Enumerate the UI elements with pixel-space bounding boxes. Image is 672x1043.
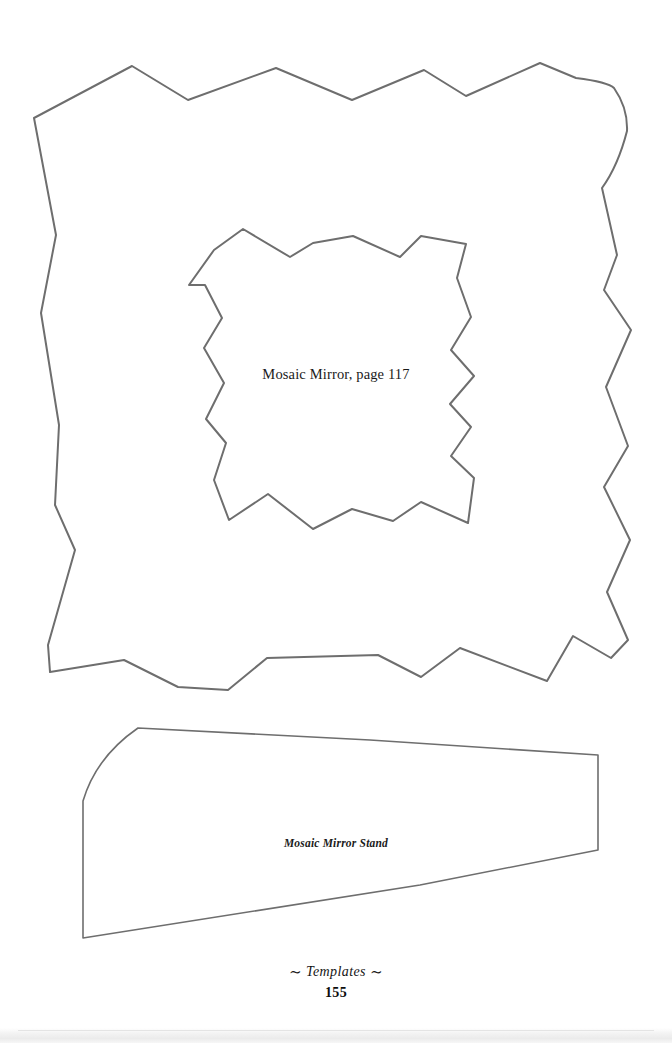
mosaic-mirror-stand-outline (83, 728, 598, 938)
template-artwork (0, 0, 672, 1043)
page-number: 155 (0, 985, 672, 1001)
page-footer: ∼Templates∼ 155 (0, 962, 672, 1001)
tilde-ornament-left-icon: ∼ (285, 964, 306, 980)
footer-section-line: ∼Templates∼ (0, 962, 672, 980)
mirror-template-label: Mosaic Mirror, page 117 (0, 366, 672, 383)
template-page: Mosaic Mirror, page 117 Mosaic Mirror St… (0, 0, 672, 1043)
tilde-ornament-right-icon: ∼ (366, 964, 387, 980)
stand-template-label: Mosaic Mirror Stand (0, 837, 672, 849)
footer-section-label: Templates (306, 964, 366, 979)
page-edge-hairline (18, 1030, 654, 1031)
